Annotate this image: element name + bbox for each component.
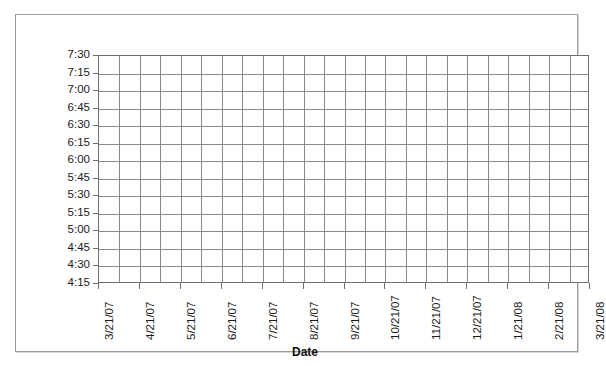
vertical-gridline <box>447 56 448 282</box>
x-axis-tick-label: 2/21/08 <box>553 302 565 340</box>
y-axis-tick-label: 5:30 <box>68 189 90 200</box>
y-axis-tick-mark <box>93 248 98 249</box>
y-axis-tick-label: 4:30 <box>68 259 90 270</box>
x-axis-tick-mark <box>262 283 263 289</box>
horizontal-gridline <box>99 214 588 215</box>
x-axis-tick-mark <box>98 283 99 289</box>
y-axis-tick-label: 5:15 <box>68 207 90 218</box>
horizontal-gridline <box>99 144 588 145</box>
x-axis-tick-mark <box>425 283 426 289</box>
y-axis-tick-mark <box>93 230 98 231</box>
x-axis-tick-label: 11/21/07 <box>430 296 442 340</box>
vertical-gridline <box>304 56 305 282</box>
y-axis-tick-mark <box>93 73 98 74</box>
y-axis-tick-mark <box>93 265 98 266</box>
vertical-gridline <box>406 56 407 282</box>
vertical-gridline <box>365 56 366 282</box>
vertical-gridline <box>345 56 346 282</box>
x-axis-tick-label: 7/21/07 <box>267 302 279 340</box>
y-axis-tick-mark <box>93 55 98 56</box>
x-axis-tick-label: 4/21/07 <box>144 302 156 340</box>
horizontal-gridline <box>99 109 588 110</box>
y-axis-tick-mark <box>93 125 98 126</box>
x-axis-tick-mark <box>221 283 222 289</box>
y-axis-tick-label: 4:45 <box>68 242 90 253</box>
y-axis-tick-mark <box>93 213 98 214</box>
y-axis-tick-label: 5:00 <box>68 224 90 235</box>
y-axis-tick-mark <box>93 195 98 196</box>
vertical-gridline <box>140 56 141 282</box>
y-axis-tick-label: 6:00 <box>68 154 90 165</box>
y-axis-tick-mark <box>93 283 98 284</box>
vertical-gridline <box>426 56 427 282</box>
y-axis-tick-mark <box>93 160 98 161</box>
y-axis-tick-label: 4:15 <box>68 277 90 288</box>
y-axis-tick-label: 6:30 <box>68 119 90 130</box>
x-axis-tick-label: 6/21/07 <box>226 302 238 340</box>
x-axis-tick-mark <box>384 283 385 289</box>
x-axis-tick-label: 12/21/07 <box>471 295 483 340</box>
horizontal-gridline <box>99 179 588 180</box>
x-axis-tick-label: 3/21/08 <box>594 302 606 340</box>
x-axis-tick-mark <box>303 283 304 289</box>
x-axis-tick-mark <box>589 283 590 289</box>
vertical-gridline <box>263 56 264 282</box>
x-axis-tick-label: 8/21/07 <box>308 302 320 340</box>
vertical-gridline <box>201 56 202 282</box>
y-axis-tick-label: 7:00 <box>68 84 90 95</box>
x-axis-tick-label: 9/21/07 <box>349 302 361 340</box>
chart-frame: 7:307:157:006:456:306:156:005:455:305:15… <box>15 14 578 352</box>
plot-area <box>98 55 589 283</box>
vertical-gridline <box>324 56 325 282</box>
horizontal-gridline <box>99 249 588 250</box>
y-axis-tick-label: 5:45 <box>68 172 90 183</box>
y-axis-tick-label: 6:15 <box>68 137 90 148</box>
vertical-gridline <box>283 56 284 282</box>
y-axis-tick-label: 7:15 <box>68 67 90 78</box>
vertical-gridline <box>570 56 571 282</box>
horizontal-gridline <box>99 161 588 162</box>
y-axis-tick-mark <box>93 178 98 179</box>
y-axis-tick-label: 6:45 <box>68 102 90 113</box>
x-axis-tick-mark <box>466 283 467 289</box>
x-axis-title: Date <box>16 345 594 359</box>
vertical-gridline <box>242 56 243 282</box>
x-axis-tick-label: 10/21/07 <box>389 295 401 340</box>
vertical-gridline <box>385 56 386 282</box>
vertical-gridline <box>549 56 550 282</box>
horizontal-gridline <box>99 266 588 267</box>
vertical-gridline <box>181 56 182 282</box>
x-axis-tick-label: 3/21/07 <box>103 302 115 340</box>
horizontal-gridline <box>99 196 588 197</box>
x-axis-tick-mark <box>139 283 140 289</box>
y-axis-tick-labels: 7:307:157:006:456:306:156:005:455:305:15… <box>16 15 90 366</box>
y-axis-tick-label: 7:30 <box>68 49 90 60</box>
x-axis-tick-mark <box>507 283 508 289</box>
vertical-gridline <box>488 56 489 282</box>
x-axis-tick-mark <box>548 283 549 289</box>
horizontal-gridline <box>99 91 588 92</box>
y-axis-tick-mark <box>93 143 98 144</box>
vertical-gridline <box>467 56 468 282</box>
x-axis-tick-label: 1/21/08 <box>512 302 524 340</box>
vertical-gridline <box>222 56 223 282</box>
x-axis-tick-mark <box>180 283 181 289</box>
x-axis-tick-mark <box>344 283 345 289</box>
x-axis-tick-label: 5/21/07 <box>185 302 197 340</box>
vertical-gridline <box>119 56 120 282</box>
y-axis-tick-mark <box>93 108 98 109</box>
horizontal-gridline <box>99 126 588 127</box>
horizontal-gridline <box>99 74 588 75</box>
horizontal-gridline <box>99 231 588 232</box>
y-axis-tick-mark <box>93 90 98 91</box>
vertical-gridline <box>529 56 530 282</box>
vertical-gridline <box>160 56 161 282</box>
vertical-gridline <box>508 56 509 282</box>
